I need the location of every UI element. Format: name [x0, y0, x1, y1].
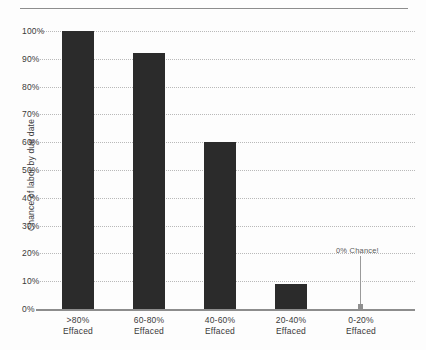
x-tick-line2-gt-80: Effaced	[48, 326, 108, 337]
annotation-marker-dot	[358, 304, 363, 309]
bar-60-80-effaced[interactable]	[133, 53, 165, 309]
bar-gt-80-effaced[interactable]	[62, 31, 94, 309]
bar-20-40-effaced[interactable]	[275, 284, 307, 309]
x-tick-60-80-effaced: 60-80% Effaced	[119, 315, 179, 337]
y-axis-title: Chance of labor by due date	[26, 95, 36, 255]
x-tick-0-20-effaced: 0-20% Effaced	[331, 315, 391, 337]
x-tick-line2-60-80: Effaced	[119, 326, 179, 337]
chart-page: 100% 90% 80% 70% 60% 50% 40% 30% 20% 10%…	[0, 0, 426, 350]
x-tick-line2-20-40: Effaced	[261, 326, 321, 337]
x-tick-line1-0-20: 0-20%	[331, 315, 391, 326]
x-tick-line1-40-60: 40-60%	[190, 315, 250, 326]
x-tick-line1-20-40: 20-40%	[261, 315, 321, 326]
x-tick-40-60-effaced: 40-60% Effaced	[190, 315, 250, 337]
x-tick-line1-gt-80: >80%	[48, 315, 108, 326]
gridline-70	[40, 114, 415, 115]
gridline-90	[40, 59, 415, 60]
annotation-label-zero-chance: 0% Chance!	[336, 246, 379, 255]
annotation-leader-line	[360, 256, 361, 306]
bar-40-60-effaced[interactable]	[204, 142, 236, 309]
x-tick-line2-40-60: Effaced	[190, 326, 250, 337]
x-axis-line	[36, 309, 415, 311]
gridline-100	[40, 31, 415, 32]
x-tick-line1-60-80: 60-80%	[119, 315, 179, 326]
gridline-80	[40, 87, 415, 88]
x-tick-gt-80-effaced: >80% Effaced	[48, 315, 108, 337]
bar-chart-plot-area: 100% 90% 80% 70% 60% 50% 40% 30% 20% 10%…	[0, 0, 426, 350]
x-tick-20-40-effaced: 20-40% Effaced	[261, 315, 321, 337]
x-tick-line2-0-20: Effaced	[331, 326, 391, 337]
